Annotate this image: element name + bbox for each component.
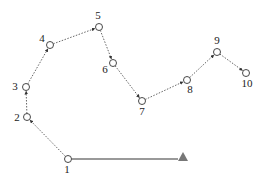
dotted-edge-9-10 — [220, 54, 243, 70]
dotted-edge-4-5 — [53, 29, 94, 44]
dotted-edge-7-8 — [145, 82, 183, 100]
node-7-circle-icon — [139, 98, 146, 105]
node-1-label: 1 — [64, 163, 70, 175]
node-9-circle-icon — [214, 49, 221, 56]
dotted-edge-6-7 — [115, 66, 139, 98]
node-7-label: 7 — [139, 105, 145, 117]
node-1-circle-icon — [65, 156, 72, 163]
node-6-label: 6 — [102, 63, 108, 75]
node-3-circle-icon — [23, 84, 30, 91]
goal-triangle-icon — [178, 152, 188, 161]
node-2-label: 2 — [14, 111, 20, 123]
node-2-circle-icon — [24, 114, 31, 121]
dotted-edge-1-2 — [30, 120, 65, 156]
node-5-label: 5 — [95, 9, 101, 21]
dotted-edge-8-9 — [190, 55, 214, 78]
node-3-label: 3 — [12, 80, 18, 92]
node-6-circle-icon — [110, 60, 117, 67]
edges-layer — [26, 29, 242, 159]
dotted-edge-2-3 — [26, 91, 27, 113]
node-9-label: 9 — [214, 34, 220, 46]
node-4-label: 4 — [39, 32, 45, 44]
nodes-layer: 12345678910 — [12, 9, 253, 175]
dotted-edge-5-6 — [100, 30, 111, 59]
path-diagram: 12345678910 — [0, 0, 266, 183]
dotted-edge-3-4 — [28, 49, 48, 84]
node-5-circle-icon — [96, 24, 103, 31]
node-4-circle-icon — [47, 42, 54, 49]
node-8-label: 8 — [187, 83, 193, 95]
node-10-circle-icon — [243, 70, 250, 77]
node-10-label: 10 — [242, 77, 254, 89]
